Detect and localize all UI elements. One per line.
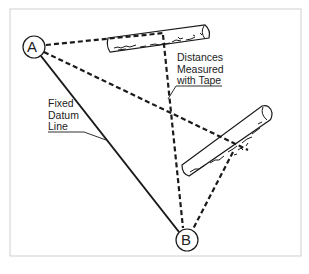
tape-label-leader bbox=[168, 86, 222, 99]
datum-line-label: Fixed Datum Line bbox=[48, 98, 79, 133]
point-b-label: B bbox=[181, 232, 191, 248]
datum-label-leader bbox=[48, 132, 106, 140]
diagram-canvas bbox=[0, 0, 309, 274]
datum-label-line3: Line bbox=[48, 121, 79, 133]
tape-distances-label: Distances Measured with Tape bbox=[177, 52, 224, 87]
fixed-datum-line bbox=[41, 56, 179, 232]
tape-label-line1: Distances bbox=[177, 52, 224, 64]
tape-label-line3: with Tape bbox=[177, 75, 224, 87]
log-upper bbox=[107, 25, 209, 52]
datum-label-line1: Fixed bbox=[48, 98, 79, 110]
point-a-label: A bbox=[27, 39, 37, 55]
